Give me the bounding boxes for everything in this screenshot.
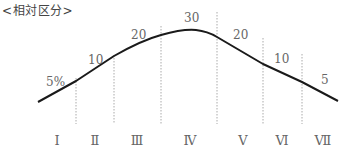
distribution-diagram: 5% 10 20 30 20 10 5 Ⅰ Ⅱ Ⅲ Ⅳ Ⅴ Ⅵ Ⅶ <box>0 0 344 149</box>
value-label-7: 5 <box>321 73 329 87</box>
zone-label-5: Ⅴ <box>237 133 248 148</box>
zone-label-6: Ⅵ <box>274 133 288 148</box>
value-label-4: 30 <box>184 11 199 25</box>
zone-label-3: Ⅲ <box>131 133 144 148</box>
value-label-3: 20 <box>131 28 146 42</box>
zone-label-4: Ⅳ <box>184 133 198 148</box>
value-label-5: 20 <box>233 28 248 42</box>
distribution-curve <box>38 30 338 102</box>
zone-label-2: Ⅱ <box>91 133 100 148</box>
value-label-2: 10 <box>88 53 103 67</box>
value-label-1: 5% <box>46 75 65 89</box>
zone-label-1: Ⅰ <box>54 133 59 148</box>
zone-dividers <box>76 12 302 124</box>
zone-label-7: Ⅶ <box>314 133 332 148</box>
value-label-6: 10 <box>274 52 289 66</box>
